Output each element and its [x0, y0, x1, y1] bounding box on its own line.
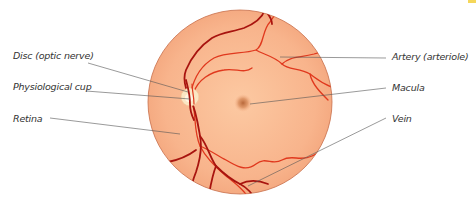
macula: [234, 94, 252, 112]
label-artery: Artery (arteriole): [392, 51, 468, 63]
fundus-diagram: Disc (optic nerve) Physiological cup Ret…: [0, 0, 476, 205]
label-vein: Vein: [392, 113, 412, 125]
fundus-illustration: [0, 0, 476, 205]
corner-tab: [468, 0, 476, 3]
label-retina: Retina: [13, 113, 42, 125]
label-macula: Macula: [392, 82, 425, 94]
label-disc: Disc (optic nerve): [13, 50, 94, 62]
label-physiological-cup: Physiological cup: [13, 81, 91, 93]
